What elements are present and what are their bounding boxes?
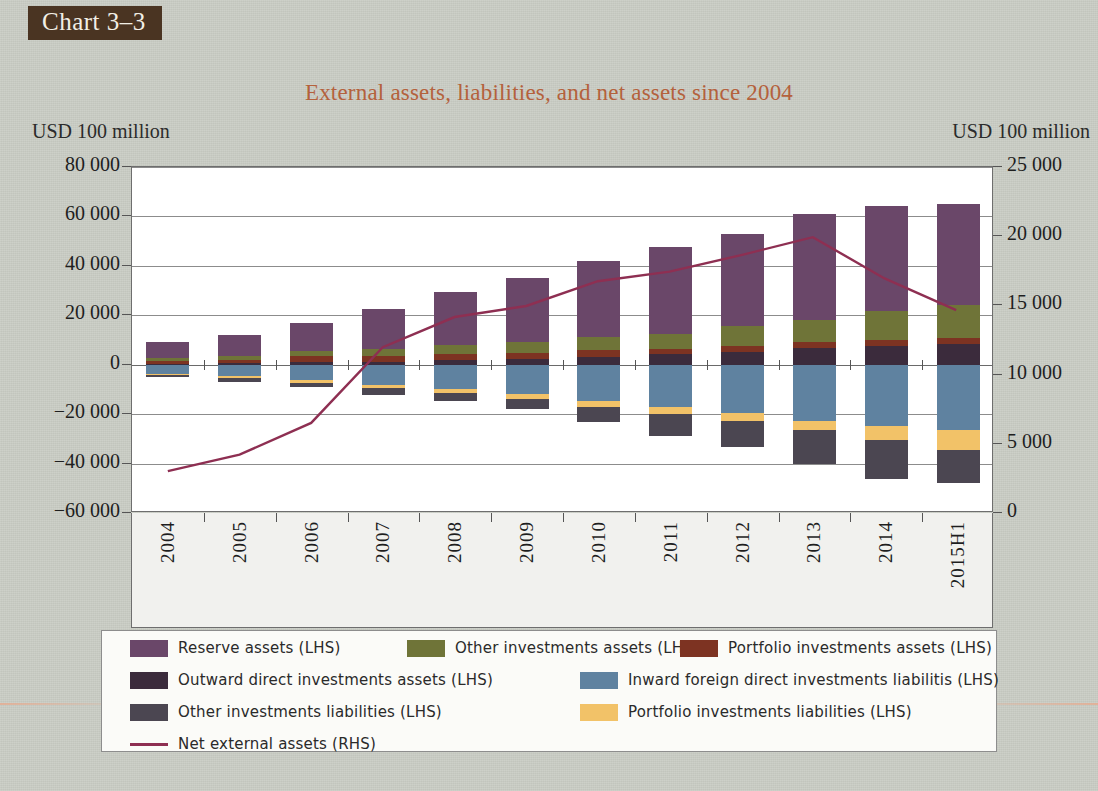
- x-axis-tick-label: 2005: [229, 521, 251, 563]
- legend-color-swatch: [580, 704, 618, 721]
- x-axis-tick-label: 2011: [660, 521, 682, 562]
- x-axis-tick: [276, 513, 277, 522]
- legend-color-swatch: [680, 640, 718, 657]
- x-axis-tick: [348, 513, 349, 522]
- x-axis-tick: [707, 513, 708, 522]
- x-axis-tick-label: 2014: [875, 521, 897, 563]
- x-axis-band: 2004200520062007200820092010201120122013…: [131, 513, 993, 628]
- right-axis-unit-label: USD 100 million: [952, 120, 1090, 143]
- x-axis-tick: [491, 513, 492, 522]
- legend-color-swatch: [130, 640, 168, 657]
- x-axis-tick-label: 2006: [301, 521, 323, 563]
- x-axis-tick: [635, 513, 636, 522]
- legend-item[interactable]: Net external assets (RHS): [130, 735, 376, 753]
- chart-title: External assets, liabilities, and net as…: [0, 80, 1098, 106]
- x-axis-tick: [779, 513, 780, 522]
- x-axis-tick-label: 2015H1: [947, 521, 969, 588]
- x-axis-tick-label: 2012: [732, 521, 754, 563]
- legend-label: Inward foreign direct investments liabil…: [628, 671, 999, 689]
- x-axis-tick: [204, 513, 205, 522]
- left-axis-unit-label: USD 100 million: [32, 120, 170, 143]
- legend-line-swatch: [130, 743, 168, 746]
- legend-label: Other investments assets (LHS): [455, 639, 699, 657]
- net-external-assets-line: [132, 167, 992, 511]
- legend-item[interactable]: Portfolio investments assets (LHS): [680, 639, 992, 657]
- legend-label: Other investments liabilities (LHS): [178, 703, 442, 721]
- legend-label: Portfolio investments assets (LHS): [728, 639, 992, 657]
- legend-color-swatch: [407, 640, 445, 657]
- legend-item[interactable]: Portfolio investments liabilities (LHS): [580, 703, 912, 721]
- x-axis-tick-label: 2007: [372, 521, 394, 563]
- legend-color-swatch: [130, 672, 168, 689]
- legend-label: Net external assets (RHS): [178, 735, 376, 753]
- x-axis-tick-label: 2009: [516, 521, 538, 563]
- x-axis-tick-label: 2008: [444, 521, 466, 563]
- x-axis-tick-label: 2004: [157, 521, 179, 563]
- legend-color-swatch: [580, 672, 618, 689]
- x-axis-tick: [563, 513, 564, 522]
- legend-item[interactable]: Reserve assets (LHS): [130, 639, 340, 657]
- legend-item[interactable]: Other investments assets (LHS): [407, 639, 699, 657]
- plot-area: [131, 166, 993, 512]
- x-axis-tick: [850, 513, 851, 522]
- x-axis-tick: [419, 513, 420, 522]
- line-path: [168, 237, 956, 471]
- x-axis-tick: [922, 513, 923, 522]
- legend-color-swatch: [130, 704, 168, 721]
- legend-item[interactable]: Inward foreign direct investments liabil…: [580, 671, 999, 689]
- legend-item[interactable]: Other investments liabilities (LHS): [130, 703, 442, 721]
- x-axis-tick-label: 2013: [803, 521, 825, 563]
- legend-label: Reserve assets (LHS): [178, 639, 340, 657]
- legend-label: Outward direct investments assets (LHS): [178, 671, 493, 689]
- x-axis-tick-label: 2010: [588, 521, 610, 563]
- chart-number-tag: Chart 3–3: [28, 6, 162, 40]
- chart-legend: Reserve assets (LHS)Other investments as…: [101, 630, 997, 752]
- legend-label: Portfolio investments liabilities (LHS): [628, 703, 912, 721]
- legend-item[interactable]: Outward direct investments assets (LHS): [130, 671, 493, 689]
